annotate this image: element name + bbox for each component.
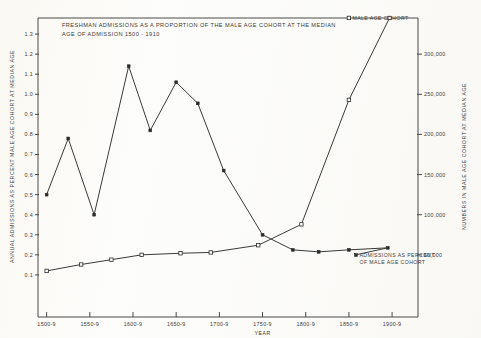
y-axis-tick-label-left: 0.3 (25, 232, 33, 238)
data-point-marker (196, 102, 199, 105)
legend-label-cohort: MALE AGE COHORT (353, 15, 409, 21)
y-axis-tick-label-right: 150,000 (424, 172, 446, 178)
data-point-marker (222, 169, 225, 172)
y-axis-title-right: NUMBERS IN MALE AGE COHORT AT MEDIAN AGE (461, 83, 467, 230)
y-axis-tick-label-left: 0.9 (25, 111, 33, 117)
y-axis-tick-label-left: 0.7 (25, 151, 33, 157)
y-axis-tick-label-right: 200,000 (424, 131, 446, 137)
y-axis-tick-label-left: 1.1 (25, 71, 33, 77)
data-point-marker (149, 129, 152, 132)
y-axis-title-left: ANNUAL ADMISSIONS AS PERCENT MALE AGE CO… (9, 50, 15, 263)
y-axis-tick-label-left: 0.1 (25, 272, 33, 278)
data-point-marker (209, 251, 212, 254)
y-axis-tick-label-left: 1.2 (25, 51, 33, 57)
y-axis-tick-label-left: 0.5 (25, 192, 33, 198)
chart-svg: 0.10.20.30.40.50.60.70.80.91.01.11.21.35… (0, 0, 481, 338)
x-axis-tick-label: 1600-9 (124, 321, 143, 327)
data-point-marker (257, 244, 260, 247)
data-point-marker (45, 193, 48, 196)
x-axis-tick-label: 1750-9 (253, 321, 272, 327)
y-axis-tick-label-left: 1.3 (25, 31, 33, 37)
y-axis-tick-label-right: 100,000 (424, 212, 446, 218)
x-axis-line (38, 295, 418, 317)
legend-marker-cohort (347, 16, 350, 19)
x-axis-title: YEAR (254, 330, 270, 336)
x-axis-tick-label: 1900-9 (383, 321, 402, 327)
series-line-admissions (47, 66, 388, 252)
data-point-marker (93, 213, 96, 216)
chart-title-line1: FRESHMAN ADMISSIONS AS A PROPORTION OF T… (62, 22, 336, 28)
legend-label-admissions-line1: ADMISSIONS AS PERCENT (360, 252, 436, 258)
data-point-marker (175, 81, 178, 84)
x-axis-tick-label: 1550-9 (81, 321, 100, 327)
y-axis-tick-label-right: 250,000 (424, 91, 446, 97)
data-point-marker (261, 233, 264, 236)
x-axis-tick-label: 1650-9 (167, 321, 186, 327)
data-point-marker (291, 248, 294, 251)
chart-figure: 0.10.20.30.40.50.60.70.80.91.01.11.21.35… (0, 0, 481, 338)
data-point-marker (127, 65, 130, 68)
data-point-marker (179, 252, 182, 255)
data-point-marker (110, 258, 113, 261)
x-axis-tick-label: 1850-9 (340, 321, 359, 327)
data-point-marker (347, 98, 350, 101)
data-point-marker (45, 269, 48, 272)
data-point-marker (317, 250, 320, 253)
chart-title-line2: AGE OF ADMISSION 1500 - 1910 (62, 31, 160, 37)
x-axis-tick-label: 1500-9 (37, 321, 56, 327)
series-line-cohort (47, 18, 390, 271)
y-axis-tick-label-left: 0.2 (25, 252, 33, 258)
legend-label-admissions-line2: OF MALE AGE COHORT (360, 259, 426, 265)
data-point-marker (348, 248, 351, 251)
y-axis-tick-label-left: 0.4 (25, 212, 33, 218)
y-axis-tick-label-left: 0.8 (25, 131, 33, 137)
data-point-marker (300, 223, 303, 226)
data-point-marker (140, 253, 143, 256)
x-axis-tick-label: 1700-9 (210, 321, 229, 327)
y-axis-tick-label-right: 300,000 (424, 51, 446, 57)
data-point-marker (79, 263, 82, 266)
y-axis-tick-label-left: 1.0 (25, 91, 33, 97)
x-axis-tick-label: 1800-9 (296, 321, 315, 327)
y-axis-tick-label-left: 0.6 (25, 172, 33, 178)
data-point-marker (67, 137, 70, 140)
